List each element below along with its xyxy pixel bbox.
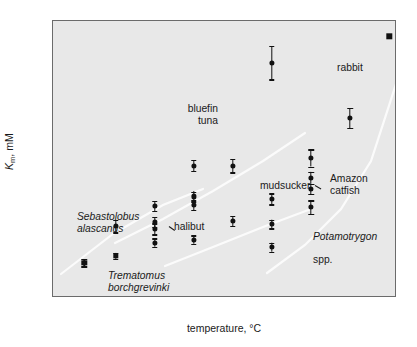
figure-root: Km, mM 00.10.20.30.40.50.60.70.80.905101… <box>0 0 417 347</box>
error-bar-cap <box>152 217 158 218</box>
error-bar-cap <box>230 172 236 173</box>
error-bar-cap <box>82 266 88 267</box>
annotation-potamotrygon-spp: spp. <box>313 254 332 265</box>
annotation-rabbit: rabbit <box>337 62 363 74</box>
error-bar-cap <box>191 244 197 245</box>
annotation-potamotrygon-genus: Potamotrygon <box>313 231 377 242</box>
x-tick <box>155 296 156 297</box>
data-point-marker <box>82 260 87 265</box>
error-bar-cap <box>230 159 236 160</box>
y-tick <box>52 52 53 53</box>
y-axis-title: Km, mM <box>3 133 17 170</box>
annotation-trematomus: Trematomus borchgrevinki <box>108 270 169 294</box>
error-bar-cap <box>269 46 275 47</box>
y-tick <box>52 236 53 237</box>
error-bar-cap <box>308 200 314 201</box>
error-bar-cap <box>191 192 197 193</box>
annotation-mudsucker: mudsucker <box>260 180 310 192</box>
annotation-sebastolobus: Sebastolobus alascanus <box>77 211 139 235</box>
x-tick <box>116 296 117 297</box>
plot-area: 00.10.20.30.40.50.60.70.80.9051015202530… <box>52 20 396 297</box>
x-tick <box>76 296 77 297</box>
y-tick <box>52 144 53 145</box>
error-bar-cap <box>347 128 353 129</box>
annotation-amazon-catfish: Amazon catfish <box>330 173 368 197</box>
error-bar-cap <box>191 160 197 161</box>
error-bar-cap <box>230 226 236 227</box>
error-bar-cap <box>152 247 158 248</box>
error-bar-cap <box>269 252 275 253</box>
y-axis-symbol: K <box>3 163 15 170</box>
data-point-marker <box>386 34 391 39</box>
error-bar-cap <box>269 228 275 229</box>
y-tick <box>52 267 53 268</box>
annotation-bluefin-tuna: bluefin tuna <box>166 103 218 127</box>
error-bar-cap <box>152 234 158 235</box>
x-tick <box>311 296 312 297</box>
x-axis-title: temperature, °C <box>52 322 396 334</box>
error-bar-cap <box>308 172 314 173</box>
error-bar-cap <box>308 194 314 195</box>
x-tick <box>350 296 351 297</box>
y-tick <box>52 21 53 22</box>
error-bar-cap <box>347 108 353 109</box>
x-tick <box>389 296 390 297</box>
x-tick <box>272 296 273 297</box>
error-bar-cap <box>191 171 197 172</box>
error-bar-cap <box>269 204 275 205</box>
error-bar-cap <box>230 216 236 217</box>
error-bar-cap <box>308 149 314 150</box>
y-tick <box>52 206 53 207</box>
error-bar-cap <box>191 201 197 202</box>
error-bar-cap <box>113 259 119 260</box>
y-tick <box>52 83 53 84</box>
error-bar-cap <box>269 79 275 80</box>
y-axis-units: , mM <box>3 133 15 156</box>
y-axis-subscript: m <box>8 157 17 163</box>
y-tick <box>52 113 53 114</box>
x-tick <box>233 296 234 297</box>
y-tick <box>52 175 53 176</box>
data-point-marker <box>113 253 118 258</box>
error-bar-cap <box>191 210 197 211</box>
error-bar-cap <box>308 214 314 215</box>
x-tick <box>194 296 195 297</box>
error-bar-cap <box>152 201 158 202</box>
annotation-halibut: halibut <box>174 221 204 233</box>
error-bar-cap <box>152 211 158 212</box>
error-bar-cap <box>308 167 314 168</box>
error-bar-cap <box>269 193 275 194</box>
error-bar-cap <box>152 227 158 228</box>
annotation-potamotrygon: Potamotrygon spp. <box>313 219 377 266</box>
